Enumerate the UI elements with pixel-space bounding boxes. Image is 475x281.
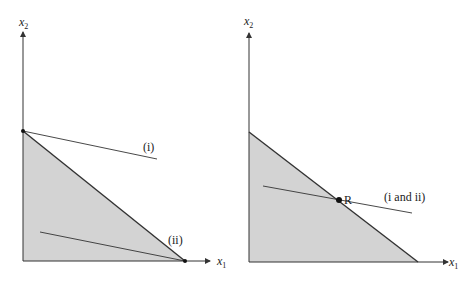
line-label-i: (i) bbox=[143, 140, 154, 154]
line-label-ii: (ii) bbox=[168, 233, 183, 247]
left-panel: x2 x1 (i) (ii) bbox=[18, 15, 226, 270]
y-axis-label: x2 bbox=[18, 15, 28, 31]
point-label-r: R bbox=[344, 193, 352, 207]
diagram-canvas: x2 x1 (i) (ii) x2 x1 R (i and ii) bbox=[0, 0, 475, 281]
y-axis-label: x2 bbox=[243, 14, 253, 30]
optimal-point-r bbox=[336, 197, 342, 203]
right-panel: x2 x1 R (i and ii) bbox=[243, 14, 458, 271]
x-axis-label: x1 bbox=[448, 255, 458, 271]
line-label-i-and-ii: (i and ii) bbox=[384, 190, 425, 204]
x-axis-label: x1 bbox=[216, 254, 226, 270]
vertex-point bbox=[21, 129, 25, 133]
vertex-point bbox=[183, 259, 187, 263]
